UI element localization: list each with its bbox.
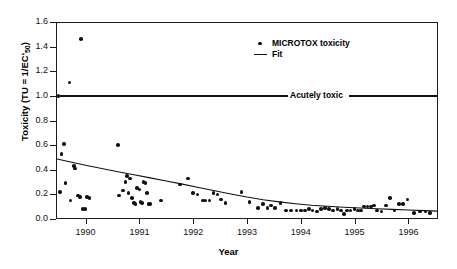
data-point	[384, 204, 388, 208]
data-point	[299, 209, 303, 213]
data-point	[128, 177, 132, 181]
data-point	[224, 201, 228, 205]
legend-item: MICROTOX toxicity	[252, 38, 350, 49]
legend-label: MICROTOX toxicity	[268, 38, 350, 49]
data-point	[327, 207, 331, 211]
data-point	[375, 209, 379, 213]
data-point	[279, 201, 283, 205]
data-point	[388, 196, 392, 200]
legend-dot-marker-icon	[252, 42, 268, 45]
data-point	[219, 198, 223, 202]
data-point	[428, 211, 432, 215]
data-point	[397, 202, 401, 206]
fit-curve-layer	[0, 0, 457, 269]
data-point	[412, 211, 416, 215]
data-point	[78, 195, 82, 199]
data-point	[289, 209, 293, 213]
threshold-line-segment	[56, 95, 288, 97]
fit-curve	[56, 159, 438, 211]
threshold-line-segment	[349, 95, 438, 97]
data-point	[58, 190, 62, 194]
data-point	[130, 196, 134, 200]
data-point	[124, 180, 128, 184]
data-point	[256, 206, 260, 210]
data-point	[331, 209, 335, 213]
legend-label: Fit	[268, 49, 282, 60]
data-point	[401, 202, 405, 206]
data-point	[372, 204, 376, 208]
acutely-toxic-label: Acutely toxic	[290, 91, 343, 100]
toxicity-scatter-chart: 0.00.20.40.60.81.01.21.41.6 199019911992…	[0, 0, 457, 269]
data-point	[186, 177, 190, 181]
data-point	[178, 183, 182, 187]
data-point	[148, 202, 152, 206]
legend-item: Fit	[252, 49, 350, 60]
data-point	[159, 199, 163, 203]
data-point	[145, 191, 149, 195]
data-point	[342, 212, 346, 216]
data-point	[273, 206, 277, 210]
data-point	[140, 201, 144, 205]
data-point	[88, 196, 92, 200]
chart-legend: MICROTOX toxicityFit	[252, 38, 350, 60]
data-point	[60, 152, 64, 156]
data-point	[261, 202, 265, 206]
data-point	[284, 209, 288, 213]
data-point	[116, 143, 120, 147]
legend-line-marker-icon	[252, 54, 268, 55]
data-point	[73, 167, 77, 171]
data-point	[191, 191, 195, 195]
data-point	[62, 142, 66, 146]
data-point	[359, 209, 363, 213]
data-point	[144, 181, 148, 185]
